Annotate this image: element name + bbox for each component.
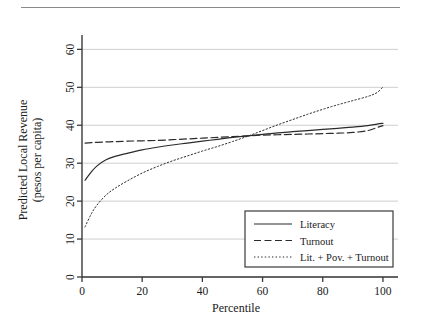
x-tick-label-20: 20 xyxy=(136,285,148,297)
x-tick-label-80: 80 xyxy=(317,285,329,297)
series-line-lit-pov-turnout xyxy=(85,87,383,227)
x-tick-label-100: 100 xyxy=(374,285,392,297)
y-axis-tick-labels-group: 0102030405060 xyxy=(64,43,76,279)
legend-label-1[interactable]: Turnout xyxy=(300,236,334,247)
y-tick-label-60: 60 xyxy=(64,43,76,55)
chart-canvas: 0102030405060 020406080100 Percentile Pr… xyxy=(0,0,421,326)
y-tick-label-30: 30 xyxy=(64,157,76,169)
y-tick-label-20: 20 xyxy=(64,195,76,207)
data-series-group xyxy=(85,87,383,227)
y-tick-label-50: 50 xyxy=(64,81,76,93)
series-line-literacy xyxy=(85,123,383,180)
x-axis-ticks-group xyxy=(82,277,383,282)
x-tick-label-0: 0 xyxy=(79,285,85,297)
figure-container: 0102030405060 020406080100 Percentile Pr… xyxy=(0,0,421,326)
x-axis-tick-labels-group: 020406080100 xyxy=(79,285,392,297)
y-tick-label-0: 0 xyxy=(64,274,76,280)
y-tick-label-10: 10 xyxy=(64,233,76,245)
x-tick-label-60: 60 xyxy=(257,285,269,297)
legend-label-2[interactable]: Lit. + Pov. + Turnout xyxy=(300,252,389,263)
y-axis-title-line-1: Predicted Local Revenue xyxy=(16,100,30,221)
y-axis-title-line-2: (pesos per capita) xyxy=(30,118,44,203)
y-tick-label-40: 40 xyxy=(64,119,76,131)
legend[interactable]: LiteracyTurnoutLit. + Pov. + Turnout xyxy=(245,211,393,267)
y-axis-ticks-group xyxy=(77,49,82,277)
x-tick-label-40: 40 xyxy=(197,285,209,297)
x-axis-title: Percentile xyxy=(212,301,260,315)
legend-label-0[interactable]: Literacy xyxy=(300,219,336,230)
